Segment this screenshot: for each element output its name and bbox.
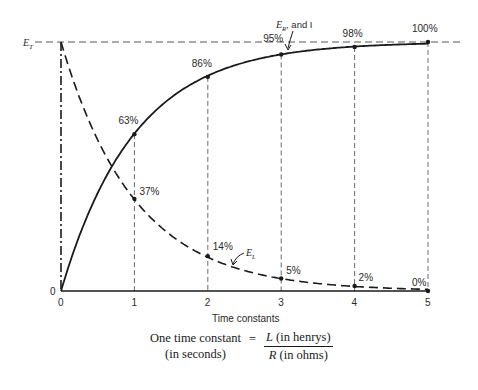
x-tick-0: 0	[58, 297, 64, 308]
er-label-t5: 100%	[412, 23, 438, 34]
er-label-t2: 86%	[192, 58, 212, 69]
er-point-t3	[279, 52, 283, 56]
x-axis-title: Time constants	[212, 313, 279, 324]
x-tick-4: 4	[352, 297, 358, 308]
x-tick-3: 3	[278, 297, 284, 308]
y-label-et: ET	[22, 37, 34, 51]
er-point-t4	[352, 45, 356, 49]
el-label-t2: 14%	[213, 241, 233, 252]
er-label-t4: 98%	[343, 28, 363, 39]
x-tick-2: 2	[205, 297, 211, 308]
el-label-t4: 2%	[359, 272, 374, 283]
formula-lhs-line1: One time constant	[150, 331, 241, 346]
el-decay-curve	[61, 42, 428, 289]
y-label-zero: 0	[50, 286, 56, 297]
vertical-gridlines	[134, 42, 428, 291]
formula-denominator: R (in ohms)	[269, 347, 328, 363]
el-point-t3	[279, 276, 283, 280]
formula-numerator: L (in henrys)	[264, 330, 333, 347]
el-point-t1	[132, 197, 136, 201]
x-tick-5: 5	[425, 297, 431, 308]
er-point-t1	[132, 132, 136, 136]
er-rise-curve	[61, 44, 428, 291]
er-point-t5	[426, 40, 430, 44]
el-label-t1: 37%	[139, 186, 159, 197]
point-labels: 63%86%95%98%100%37%14%5%2%0%	[118, 23, 437, 288]
er-label-t1: 63%	[118, 115, 138, 126]
er-point-t2	[206, 75, 210, 79]
el-annotation-arrow	[233, 253, 244, 264]
formula-lhs-line2: (in seconds)	[165, 347, 226, 362]
el-point-t5	[426, 289, 430, 293]
el-point-t4	[352, 284, 356, 288]
formula-lhs: One time constant (in seconds)	[150, 331, 241, 362]
el-point-t2	[206, 254, 210, 258]
x-tick-labels: 012345	[58, 297, 431, 308]
x-tick-1: 1	[131, 297, 137, 308]
er-annotation-label: ER, and I	[275, 19, 313, 32]
el-label-t3: 5%	[286, 265, 301, 276]
el-annotation-label: EL	[245, 247, 256, 260]
formula-fraction: L (in henrys) R (in ohms)	[264, 330, 333, 363]
el-label-t5: 0%	[412, 277, 427, 288]
time-constant-formula: One time constant (in seconds) = L (in h…	[150, 330, 333, 363]
er-label-t3: 95%	[263, 33, 283, 44]
formula-equals: =	[249, 332, 256, 347]
